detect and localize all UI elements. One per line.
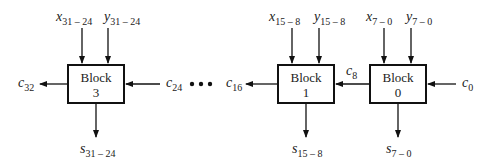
label-c24: c24	[166, 75, 182, 93]
label-x31-24: x31 – 24	[55, 9, 92, 27]
label-s31-24: s31 – 24	[80, 141, 115, 159]
label-c8: c8	[346, 63, 357, 81]
label-s15-8: s15 – 8	[292, 141, 322, 159]
label-x7-0: x7 – 0	[365, 9, 392, 27]
block-3-label: Block	[80, 70, 112, 85]
block-3-number: 3	[93, 85, 100, 100]
block-1-label: Block	[290, 70, 322, 85]
label-c32: c32	[18, 75, 34, 93]
label-s7-0: s7 – 0	[386, 141, 411, 159]
label-y31-24: y31 – 24	[102, 9, 140, 27]
label-c0: c0	[462, 75, 473, 93]
label-x15-8: x15 – 8	[268, 9, 300, 27]
block-3: Block 3	[68, 65, 124, 103]
label-y7-0: y7 – 0	[404, 9, 432, 27]
block-0-number: 0	[395, 85, 402, 100]
block-0-label: Block	[382, 70, 414, 85]
adder-diagram: Block 3 x31 – 24 y31 – 24 s31 – 24 c32 c…	[0, 0, 490, 165]
block-1: Block 1	[278, 65, 334, 103]
block-0: Block 0	[370, 65, 426, 103]
ellipsis-dots	[190, 82, 212, 86]
label-y15-8: y15 – 8	[312, 9, 345, 27]
label-c16: c16	[226, 75, 242, 93]
block-1-number: 1	[303, 85, 310, 100]
